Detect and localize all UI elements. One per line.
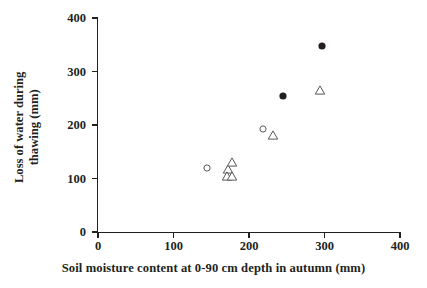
plot-area xyxy=(98,18,400,232)
x-tick-100 xyxy=(173,232,174,238)
y-axis-title-line-1: Loss of water during xyxy=(12,17,27,237)
data-point-open-triangle xyxy=(314,85,325,95)
y-axis-title: Loss of water during thawing (mm) xyxy=(12,17,43,237)
y-tick-label-400: 400 xyxy=(52,12,86,25)
data-point-open-circle xyxy=(202,163,211,172)
x-tick-0 xyxy=(97,232,98,238)
y-tick-200 xyxy=(92,124,98,125)
x-tick-label-100: 100 xyxy=(144,240,204,253)
y-tick-label-300: 300 xyxy=(52,66,86,79)
data-point-open-triangle xyxy=(268,130,279,140)
y-tick-label-200: 200 xyxy=(52,119,86,132)
x-tick-label-300: 300 xyxy=(295,240,355,253)
y-tick-300 xyxy=(92,71,98,72)
x-tick-300 xyxy=(324,232,325,238)
data-point-open-circle xyxy=(258,125,267,134)
x-tick-400 xyxy=(399,232,400,238)
scatter-chart-figure: 0100200300400 0100200300400 Soil moistur… xyxy=(0,0,427,288)
x-tick-label-0: 0 xyxy=(68,240,128,253)
data-point-open-triangle xyxy=(226,157,237,167)
x-tick-200 xyxy=(248,232,249,238)
x-tick-label-400: 400 xyxy=(370,240,427,253)
data-point-filled-circle xyxy=(278,91,287,100)
x-tick-label-200: 200 xyxy=(219,240,279,253)
y-tick-label-100: 100 xyxy=(52,173,86,186)
x-axis-title: Soil moisture content at 0-90 cm depth i… xyxy=(0,261,427,276)
y-axis-title-line-2: thawing (mm) xyxy=(27,17,42,237)
data-point-open-triangle xyxy=(226,171,237,181)
y-tick-label-0: 0 xyxy=(52,226,86,239)
y-tick-100 xyxy=(92,178,98,179)
data-point-filled-circle xyxy=(318,42,327,51)
y-tick-400 xyxy=(92,17,98,18)
